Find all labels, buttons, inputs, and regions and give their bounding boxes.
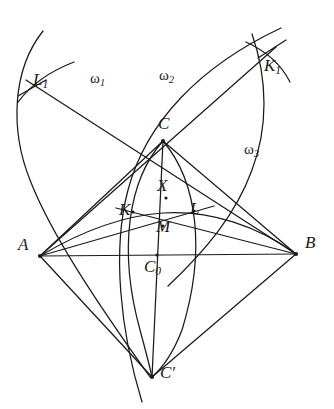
label-C-zero: C0 (144, 258, 161, 277)
point-B (294, 252, 298, 256)
label-K: K (119, 201, 130, 218)
point-A (38, 254, 42, 258)
label-C: C (158, 115, 169, 132)
geometry-figure (0, 0, 334, 409)
label-C-prime: C′ (160, 364, 175, 381)
segment-ACprime (40, 256, 152, 377)
point-dots (38, 139, 298, 379)
label-B: B (305, 234, 315, 251)
label-K1-main: K (264, 56, 275, 75)
point-K (131, 210, 134, 213)
label-omega1-main: ω (90, 70, 100, 86)
label-A: A (18, 236, 28, 253)
label-omega3: ω3 (244, 142, 259, 159)
label-omega2: ω2 (159, 68, 174, 85)
point-X (164, 196, 167, 199)
point-C-prime (150, 375, 154, 379)
label-omega1-sub: 1 (100, 77, 105, 88)
label-omega2-sub: 2 (169, 74, 174, 85)
label-omega3-sub: 3 (254, 148, 259, 159)
arc-omega3 (168, 34, 264, 286)
segment-BCprime (152, 254, 296, 377)
label-C-zero-main: C (144, 257, 155, 276)
label-K1: K1 (264, 57, 281, 76)
label-L: L (190, 200, 199, 217)
label-omega1: ω1 (90, 71, 105, 88)
segment-AB (40, 254, 296, 256)
point-C-zero (155, 253, 158, 256)
label-K1-sub: 1 (275, 64, 281, 77)
label-L1: L1 (33, 71, 48, 90)
label-C-zero-sub: 0 (155, 265, 161, 278)
point-C (161, 139, 165, 143)
label-omega3-main: ω (244, 141, 254, 157)
label-M: M (156, 218, 170, 235)
label-omega2-main: ω (159, 67, 169, 83)
label-L1-sub: 1 (42, 78, 48, 91)
label-X: X (157, 177, 167, 194)
